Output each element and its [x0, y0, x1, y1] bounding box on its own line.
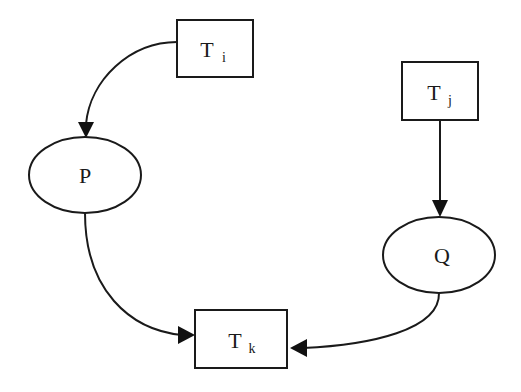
arrowhead-icon	[178, 326, 195, 344]
node-tj[interactable]: T j	[402, 62, 478, 120]
node-ti-label: T	[200, 37, 214, 62]
edge-q-to-tk	[290, 293, 439, 357]
edge-tj-to-q	[432, 120, 448, 217]
node-ti-subscript: i	[222, 50, 226, 65]
node-ti[interactable]: T i	[177, 20, 253, 77]
arrowhead-icon	[432, 200, 448, 217]
node-q-label: Q	[434, 243, 450, 268]
node-tj-subscript: j	[447, 93, 452, 108]
node-tk-subscript: k	[249, 341, 256, 356]
node-tj-label: T	[427, 80, 441, 105]
arrowhead-icon	[78, 122, 94, 138]
arrowhead-icon	[290, 339, 307, 357]
node-q[interactable]: Q	[383, 217, 495, 293]
node-tk[interactable]: T k	[195, 310, 287, 368]
node-tk-label: T	[228, 328, 242, 353]
node-p-label: P	[79, 163, 91, 188]
node-p[interactable]: P	[29, 137, 141, 213]
edge-p-to-tk	[85, 213, 195, 344]
edge-ti-to-p	[78, 42, 177, 138]
svg-text:T: T	[200, 37, 214, 62]
dependency-diagram: T i T j T k P Q	[0, 0, 521, 392]
